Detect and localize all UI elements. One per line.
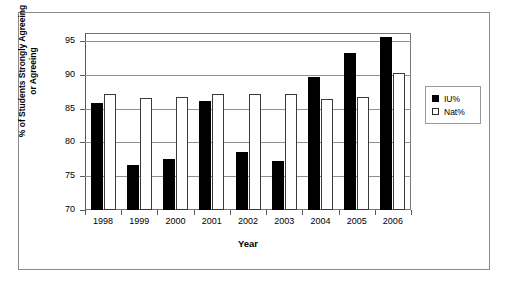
y-tick-label: 90 (47, 70, 75, 79)
bar-nat-1998 (104, 94, 116, 210)
x-tick-mark (375, 210, 376, 215)
x-tick-label: 2000 (156, 216, 196, 226)
y-tick-label: 75 (47, 171, 75, 180)
legend-label-iu: IU% (444, 94, 460, 104)
x-tick-mark (121, 210, 122, 215)
y-tick-label: 80 (47, 137, 75, 146)
bar-iu-2003 (272, 161, 284, 210)
x-tick-mark (302, 210, 303, 215)
bar-iu-2000 (163, 159, 175, 210)
bar-iu-2006 (380, 37, 392, 210)
chart-figure: % of Students Strongly Agreeing or Agree… (0, 0, 506, 284)
bar-nat-1999 (140, 98, 152, 210)
x-tick-label: 1999 (119, 216, 159, 226)
bar-nat-2002 (249, 94, 261, 210)
y-axis-title: % of Students Strongly Agreeing or Agree… (17, 0, 39, 151)
bar-nat-2005 (357, 97, 369, 210)
bar-iu-2001 (199, 101, 211, 210)
x-tick-label: 2006 (373, 216, 413, 226)
x-tick-label: 1998 (83, 216, 123, 226)
bar-iu-1999 (127, 165, 139, 210)
gridline (85, 75, 411, 76)
x-tick-label: 2002 (228, 216, 268, 226)
x-tick-label: 2003 (264, 216, 304, 226)
legend-item-nat: Nat% (432, 105, 474, 118)
x-axis-title: Year (85, 238, 411, 249)
bar-nat-2001 (212, 94, 224, 210)
x-tick-label: 2001 (192, 216, 232, 226)
y-axis-line (85, 33, 86, 210)
x-tick-mark (339, 210, 340, 215)
bar-nat-2003 (285, 94, 297, 210)
bar-nat-2000 (176, 97, 188, 210)
empty-square-icon (432, 108, 439, 115)
gridline (85, 41, 411, 42)
x-tick-mark (157, 210, 158, 215)
chart-legend: IU% Nat% (425, 86, 481, 124)
filled-square-icon (432, 95, 439, 102)
bar-iu-1998 (91, 103, 103, 210)
x-tick-mark (85, 210, 86, 215)
bar-iu-2004 (308, 77, 320, 210)
y-tick-label: 85 (47, 104, 75, 113)
legend-item-iu: IU% (432, 92, 474, 105)
bar-iu-2002 (236, 152, 248, 210)
y-tick-label: 70 (47, 205, 75, 214)
bar-nat-2004 (321, 99, 333, 210)
y-tick-label: 95 (47, 36, 75, 45)
bar-nat-2006 (393, 73, 405, 210)
x-tick-label: 2004 (300, 216, 340, 226)
x-tick-label: 2005 (337, 216, 377, 226)
x-tick-mark (194, 210, 195, 215)
x-tick-mark (266, 210, 267, 215)
bar-iu-2005 (344, 53, 356, 210)
x-tick-mark (411, 210, 412, 215)
x-tick-mark (230, 210, 231, 215)
legend-label-nat: Nat% (444, 107, 465, 117)
